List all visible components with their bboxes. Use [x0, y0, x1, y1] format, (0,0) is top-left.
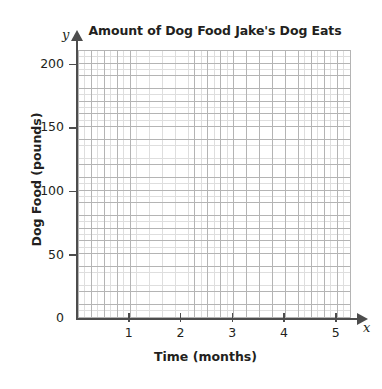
x-tick-mark — [283, 313, 285, 322]
y-tick-mark — [69, 191, 78, 193]
y-tick-label: 200 — [4, 58, 64, 71]
x-tick-label: 1 — [117, 327, 141, 340]
y-axis-arrow-icon — [71, 30, 83, 41]
chart-title: Amount of Dog Food Jake's Dog Eats — [78, 23, 352, 38]
x-axis-line — [76, 318, 359, 320]
x-tick-mark — [335, 313, 337, 322]
x-tick-mark — [232, 313, 234, 322]
y-axis-symbol: y — [62, 27, 69, 42]
y-tick-mark — [69, 127, 78, 129]
x-tick-label: 4 — [272, 327, 296, 340]
y-tick-label: 0 — [4, 312, 64, 325]
x-axis-symbol: x — [363, 320, 370, 335]
x-tick-label: 2 — [169, 327, 193, 340]
x-tick-mark — [128, 313, 130, 322]
x-tick-label: 3 — [220, 327, 244, 340]
x-tick-label: 5 — [324, 327, 348, 340]
y-tick-mark — [69, 254, 78, 256]
y-axis-title: Dog Food (pounds) — [29, 100, 44, 260]
plot-grid-area — [78, 50, 350, 318]
grid-right-border — [350, 50, 351, 318]
y-tick-mark — [69, 64, 78, 66]
x-axis-title: Time (months) — [118, 349, 293, 364]
x-tick-mark — [180, 313, 182, 322]
y-axis-line — [76, 40, 78, 319]
grid-top-border — [78, 50, 350, 51]
chart-canvas: Amount of Dog Food Jake's Dog Eats y x 0… — [0, 0, 382, 389]
